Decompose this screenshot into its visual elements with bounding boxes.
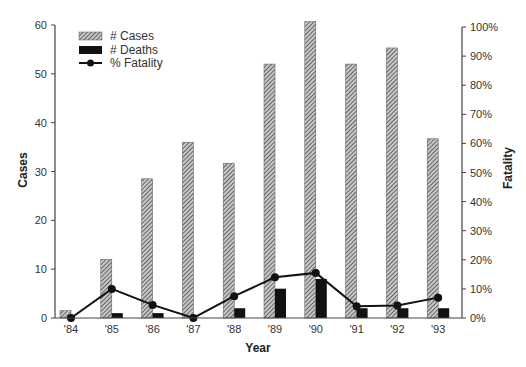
y-tick-label-right: 0% [470,312,486,324]
x-tick-label: '92 [390,323,404,335]
legend-swatch-deaths [79,46,102,54]
y-tick-label-right: 30% [470,225,492,237]
fatality-marker [149,301,157,309]
fatality-marker [108,285,116,293]
chart-canvas: '84'85'86'87'88'89'90'91'92'930102030405… [0,0,526,367]
y-tick-label-right: 100% [470,21,498,33]
fatality-line [71,273,438,318]
fatality-marker [312,269,320,277]
x-tick-label: '90 [309,323,323,335]
y-tick-label-left: 40 [35,117,47,129]
bar-deaths [316,279,327,318]
legend-label-deaths: # Deaths [110,43,158,57]
y-tick-label-left: 20 [35,214,47,226]
bar-cases [182,142,193,318]
y-axis-title-right: Fatality [501,147,515,189]
y-tick-label-right: 20% [470,254,492,266]
bar-deaths [275,289,286,318]
x-tick-label: '87 [186,323,200,335]
x-tick-label: '86 [145,323,159,335]
y-tick-label-right: 60% [470,137,492,149]
y-tick-label-left: 10 [35,263,47,275]
fatality-marker [271,273,279,281]
x-axis-title: Year [245,341,271,355]
y-tick-label-right: 90% [470,50,492,62]
y-tick-label-right: 70% [470,108,492,120]
x-tick-label: '85 [105,323,119,335]
y-tick-label-left: 0 [41,312,47,324]
y-tick-label-left: 60 [35,19,47,31]
legend: # Cases # Deaths % Fatality [79,29,163,70]
bar-deaths [234,308,245,318]
fatality-marker [230,292,238,300]
bar-cases [346,64,357,318]
legend-swatch-fatality-marker [87,60,94,67]
bar-deaths [438,308,449,318]
legend-label-cases: # Cases [110,29,154,43]
bar-deaths [112,313,123,318]
bar-deaths [153,313,164,318]
y-axis-title-left: Cases [16,152,30,188]
x-tick-label: '93 [431,323,445,335]
fatality-marker [393,301,401,309]
y-tick-label-right: 10% [470,283,492,295]
y-tick-label-left: 30 [35,166,47,178]
fatality-line-layer [67,269,442,322]
x-tick-label: '88 [227,323,241,335]
y-tick-label-right: 80% [470,79,492,91]
bar-cases [427,139,438,318]
fatality-marker [434,294,442,302]
bar-cases [386,48,397,318]
legend-label-fatality: % Fatality [110,56,163,70]
y-tick-label-right: 40% [470,196,492,208]
x-tick-label: '84 [64,323,78,335]
y-tick-label-right: 50% [470,167,492,179]
x-tick-label: '89 [268,323,282,335]
legend-swatch-cases [79,32,102,40]
x-tick-label: '91 [349,323,363,335]
fatality-marker [353,302,361,310]
bar-deaths [397,308,408,318]
bar-cases [142,179,153,318]
y-tick-label-left: 50 [35,68,47,80]
